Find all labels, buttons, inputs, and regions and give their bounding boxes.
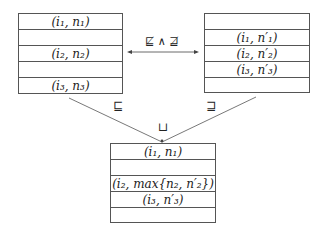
merged-row-3: (i₂, max{n₂, n′₂}) [111, 176, 215, 192]
right-row-4: (i₃, n′₃) [205, 62, 309, 78]
merged-row-4: (i₃, n′₃) [111, 192, 215, 208]
merged-table: (i₁, n₁) (i₂, max{n₂, n′₂}) (i₃, n′₃) [110, 143, 216, 223]
merged-row-1: (i₁, n₁) [111, 144, 215, 160]
merged-row-5 [111, 208, 215, 224]
right-table: (i₁, n′₁) (i₂, n′₂) (i₃, n′₃) [204, 13, 310, 93]
right-order-symbol: ⊒ [206, 100, 216, 112]
join-symbol: ⊔ [158, 121, 168, 133]
left-table: (i₁, n₁) (i₂, n₂) (i₃, n₃) [18, 13, 123, 94]
incomparable-label: ⋢ ∧ ⋣ [145, 36, 179, 47]
right-row-2: (i₁, n′₁) [205, 30, 309, 46]
left-row-3: (i₂, n₂) [19, 46, 122, 62]
right-row-3: (i₂, n′₂) [205, 46, 309, 62]
merged-row-2 [111, 160, 215, 176]
left-row-4 [19, 62, 122, 78]
left-row-2 [19, 30, 122, 46]
left-row-5: (i₃, n₃) [19, 78, 122, 94]
right-row-5 [205, 78, 309, 94]
left-row-1: (i₁, n₁) [19, 14, 122, 30]
left-order-symbol: ⊑ [113, 100, 123, 112]
right-row-1 [205, 14, 309, 30]
